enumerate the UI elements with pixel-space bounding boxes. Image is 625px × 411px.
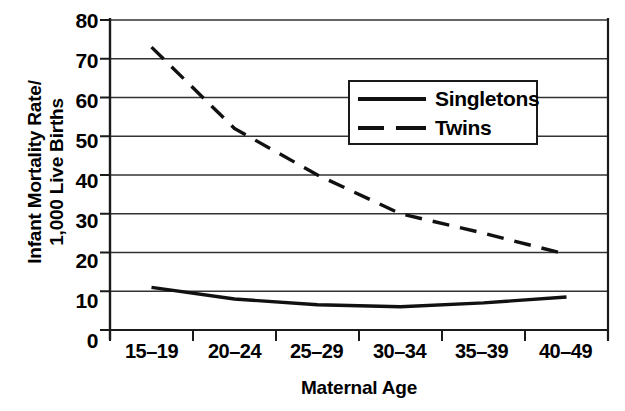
x-tick-label-2: 25–29 (275, 341, 358, 361)
x-axis-title: Maternal Age (110, 377, 608, 399)
legend-swatch-dashed-icon (358, 120, 426, 136)
legend-item-twins: Twins (358, 114, 491, 142)
legend-item-singletons: Singletons (358, 85, 539, 113)
legend-label-singletons: Singletons (435, 87, 539, 111)
infant-mortality-line-chart: Infant Mortality Rate/ 1,000 Live Births… (0, 0, 625, 411)
legend-label-twins: Twins (435, 116, 491, 140)
x-tick-label-5: 40–49 (523, 341, 608, 361)
legend-swatch-solid-icon (358, 91, 426, 107)
x-axis-ticks (110, 330, 608, 341)
chart-legend: Singletons Twins (348, 80, 538, 145)
series-line-singletons (152, 287, 567, 306)
x-tick-label-1: 20–24 (193, 341, 276, 361)
x-tick-label-4: 35–39 (440, 341, 523, 361)
gridlines (110, 20, 608, 330)
x-tick-label-3: 30–34 (358, 341, 441, 361)
series-line-twins (152, 47, 567, 254)
x-tick-label-0: 15–19 (110, 341, 193, 361)
